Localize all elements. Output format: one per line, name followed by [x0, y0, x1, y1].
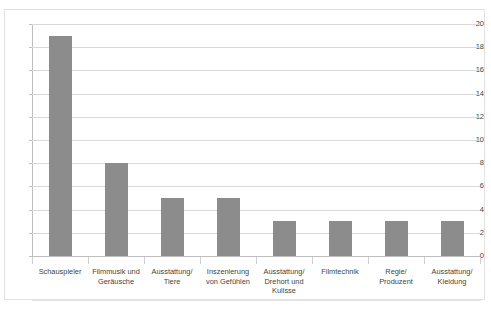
plot-area	[32, 24, 480, 256]
x-tick-mark	[368, 257, 369, 264]
bar-slot	[312, 24, 368, 256]
x-tick-label: Filmtechnik	[312, 265, 368, 301]
x-axis-ticks	[32, 257, 480, 264]
bar[interactable]	[161, 198, 184, 256]
bar-slot	[424, 24, 480, 256]
x-axis-labels: Schauspieler Filmmusik und Geräusche Aus…	[32, 265, 480, 301]
x-tick-label: Ausstattung/ Tiere	[144, 265, 200, 301]
bar-chart: 20 18 16 14 12 10 8 6 4 2 0 Schauspieler…	[4, 9, 485, 300]
bar-slot	[200, 24, 256, 256]
x-tick-label: Ausstattung/ Drehort und Kulisse	[256, 265, 312, 301]
x-tick-mark	[200, 257, 201, 264]
x-tick-label: Schauspieler	[32, 265, 88, 301]
x-tick-mark	[312, 257, 313, 264]
bar-series	[32, 24, 480, 256]
bar-slot	[32, 24, 88, 256]
bar[interactable]	[49, 36, 72, 256]
bar-slot	[256, 24, 312, 256]
x-tick-mark	[256, 257, 257, 264]
bar[interactable]	[385, 221, 408, 256]
bar-slot	[88, 24, 144, 256]
x-tick-mark	[32, 257, 33, 264]
x-axis-label-rule	[32, 300, 481, 301]
bar[interactable]	[273, 221, 296, 256]
bar[interactable]	[105, 163, 128, 256]
bar[interactable]	[441, 221, 464, 256]
bar-slot	[144, 24, 200, 256]
x-tick-label: Ausstattung/ Kleidung	[424, 265, 480, 301]
bar[interactable]	[329, 221, 352, 256]
x-tick-mark	[424, 257, 425, 264]
x-tick-label: Filmmusik und Geräusche	[88, 265, 144, 301]
bar-slot	[368, 24, 424, 256]
x-tick-mark	[144, 257, 145, 264]
bar[interactable]	[217, 198, 240, 256]
clipped-chart-title	[0, 0, 491, 1]
x-tick-mark	[88, 257, 89, 264]
x-tick-label: Regie/ Produzent	[368, 265, 424, 301]
x-tick-mark	[480, 257, 481, 264]
x-tick-label: Inszenierung von Gefühlen	[200, 265, 256, 301]
